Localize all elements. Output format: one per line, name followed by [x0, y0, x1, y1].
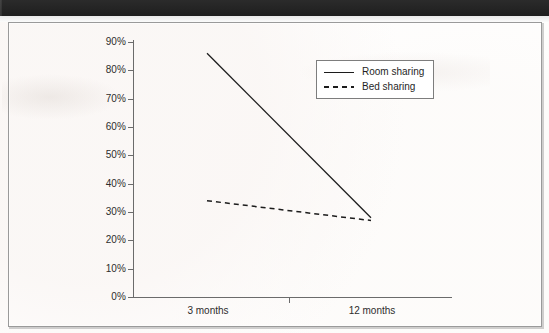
legend-dashed-line-icon [324, 82, 354, 92]
legend-entry-bed-sharing: Bed sharing [324, 81, 415, 93]
line-chart: 90% 80% 70% 60% 50% 40% 30% 20% [0, 0, 549, 333]
series-line-bed-sharing [207, 201, 371, 221]
series-canvas [0, 0, 549, 333]
legend-label: Room sharing [362, 66, 424, 78]
legend-solid-line-icon [324, 67, 354, 77]
legend-entry-room-sharing: Room sharing [324, 66, 424, 78]
scanned-page: 90% 80% 70% 60% 50% 40% 30% 20% [0, 0, 549, 333]
chart-legend: Room sharing Bed sharing [316, 60, 434, 99]
legend-label: Bed sharing [362, 81, 415, 93]
